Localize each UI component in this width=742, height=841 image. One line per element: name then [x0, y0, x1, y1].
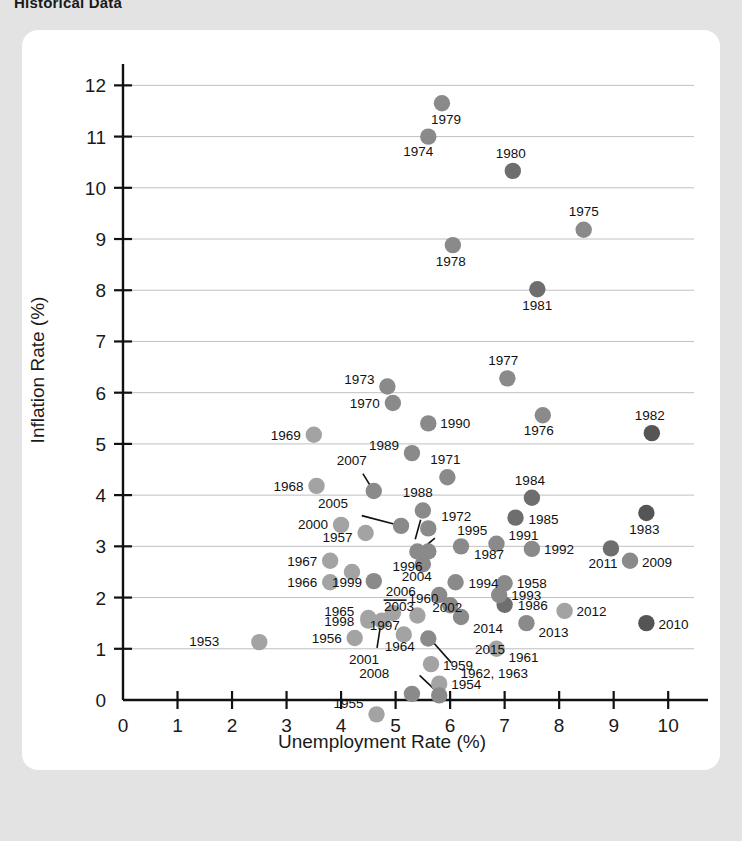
point-label-1991: 1991 — [508, 528, 538, 543]
point-label-1976: 1976 — [524, 423, 554, 438]
data-point-2015 — [404, 686, 420, 702]
y-tick-label: 0 — [95, 690, 106, 711]
data-point-1977 — [499, 370, 515, 386]
y-tick-label: 4 — [95, 485, 106, 506]
data-point-1972 — [420, 520, 436, 536]
data-point-1975 — [575, 222, 591, 238]
data-point-1980 — [505, 163, 521, 179]
data-point-2005 — [393, 518, 409, 534]
leader-line-2005 — [362, 516, 397, 525]
point-label-1989: 1989 — [369, 438, 399, 453]
point-label-2001: 2001 — [349, 652, 379, 667]
point-label-2000: 2000 — [298, 517, 328, 532]
point-label-1997: 1997 — [370, 618, 400, 633]
leader-line-1996 — [415, 520, 420, 539]
y-tick-label: 2 — [95, 588, 106, 609]
y-tick-label: 11 — [86, 127, 106, 148]
point-label-2015: 2015 — [475, 642, 505, 657]
point-label-1980: 1980 — [496, 146, 526, 161]
point-label-1977: 1977 — [488, 353, 518, 368]
data-point-1973 — [379, 378, 395, 394]
point-label-1953: 1953 — [189, 634, 219, 649]
point-label-1957: 1957 — [323, 530, 353, 545]
data-point-1976 — [535, 407, 551, 423]
point-label-1983: 1983 — [629, 522, 659, 537]
point-label-2009: 2009 — [642, 555, 672, 570]
y-tick-label: 7 — [95, 331, 106, 352]
y-tick-label: 8 — [95, 280, 106, 301]
data-point-1990 — [420, 415, 436, 431]
point-label-1994: 1994 — [469, 576, 500, 591]
point-label-2006: 2006 — [386, 584, 416, 599]
point-label-2004: 2004 — [402, 569, 433, 584]
point-label-1968: 1968 — [273, 479, 303, 494]
y-tick-label: 5 — [95, 434, 106, 455]
point-labels: 1953195419551956195719581959196019611962… — [189, 112, 688, 711]
point-label-1967: 1967 — [287, 554, 317, 569]
data-point-1962-1963 — [420, 630, 436, 646]
point-label-1999: 1999 — [332, 575, 362, 590]
point-label-2011: 2011 — [588, 556, 617, 571]
point-label-2010: 2010 — [658, 617, 688, 632]
point-label-1962-1963: 1962, 1963 — [461, 666, 529, 681]
data-point-2011 — [603, 540, 619, 556]
x-tick-label: 7 — [499, 715, 510, 736]
point-label-1956: 1956 — [312, 631, 342, 646]
point-label-1993: 1993 — [511, 588, 541, 603]
y-tick-label: 3 — [95, 536, 106, 557]
data-point-1971 — [439, 469, 455, 485]
data-point-2006 — [366, 573, 382, 589]
point-label-1984: 1984 — [515, 473, 546, 488]
data-point-2010 — [638, 615, 654, 631]
x-tick-label: 8 — [554, 715, 565, 736]
point-label-2003: 2003 — [384, 599, 414, 614]
y-tick-label: 6 — [95, 383, 106, 404]
data-point-2009 — [622, 552, 638, 568]
data-point-1987 — [453, 538, 469, 554]
point-label-1987: 1987 — [474, 547, 504, 562]
data-point-1957 — [357, 525, 373, 541]
data-point-1978 — [445, 237, 461, 253]
data-point-2012 — [556, 603, 572, 619]
x-tick-label: 0 — [118, 715, 129, 736]
point-label-2007: 2007 — [337, 453, 367, 468]
point-label-2005: 2005 — [318, 496, 348, 511]
data-point-1979 — [434, 95, 450, 111]
x-axis-title: Unemployment Rate (%) — [278, 731, 486, 752]
point-label-1971: 1971 — [430, 452, 460, 467]
point-label-1975: 1975 — [569, 204, 599, 219]
point-label-1988: 1988 — [403, 485, 433, 500]
point-label-1964: 1964 — [385, 639, 416, 654]
data-point-1981 — [529, 281, 545, 297]
y-tick-label: 9 — [95, 229, 106, 250]
data-point-1955 — [368, 706, 384, 722]
data-point-1988 — [415, 502, 431, 518]
point-label-1998: 1998 — [324, 614, 354, 629]
data-point-1967 — [322, 552, 338, 568]
point-label-1992: 1992 — [544, 542, 574, 557]
data-point-1989 — [404, 445, 420, 461]
point-label-1972: 1972 — [441, 509, 471, 524]
point-label-1955: 1955 — [333, 696, 363, 711]
x-tick-label: 2 — [227, 715, 238, 736]
point-label-1995: 1995 — [457, 523, 487, 538]
point-label-1978: 1978 — [436, 254, 466, 269]
y-axis-title: Inflation Rate (%) — [27, 297, 48, 444]
data-point-1953 — [251, 634, 267, 650]
data-point-1982 — [644, 425, 660, 441]
y-tick-label: 1 — [95, 639, 106, 660]
data-point-1956 — [347, 630, 363, 646]
data-point-1970 — [385, 395, 401, 411]
point-label-2008: 2008 — [359, 666, 389, 681]
point-label-1974: 1974 — [403, 144, 434, 159]
y-axis: 0123456789101112 — [85, 64, 132, 711]
x-tick-label: 9 — [608, 715, 619, 736]
data-point-1968 — [308, 478, 324, 494]
page-title: Historical Data — [14, 0, 122, 11]
data-point-1992 — [524, 541, 540, 557]
point-label-1970: 1970 — [350, 396, 380, 411]
data-point-1969 — [306, 426, 322, 442]
point-label-2014: 2014 — [473, 621, 504, 636]
data-point-2007 — [366, 483, 382, 499]
point-label-2013: 2013 — [538, 625, 568, 640]
